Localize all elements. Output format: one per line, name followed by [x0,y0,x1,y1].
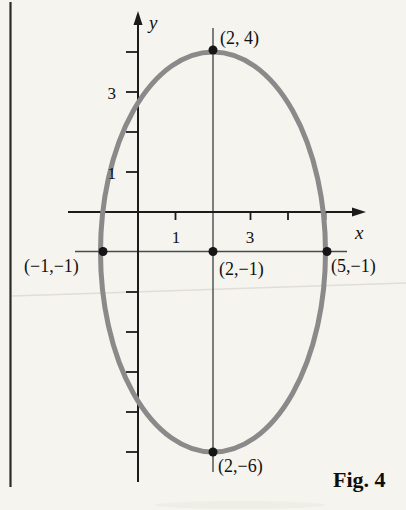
point-label-center: (2,−1) [219,259,264,280]
scan-artifact-line [12,283,406,296]
y-axis-arrow-icon [134,11,143,25]
figure-caption: Fig. 4 [333,467,386,492]
point-dot-top [209,46,218,55]
point-dot-bottom [209,448,218,457]
x-tick-label-1: 1 [172,228,181,247]
point-label-bottom: (2,−6) [218,456,263,477]
x-tick-label-3: 3 [246,228,255,247]
point-dot-center [209,247,218,256]
y-axis-label: y [147,12,158,33]
point-label-left: (−1,−1) [24,256,79,277]
point-dot-left [99,247,108,256]
x-axis-arrow-icon [352,208,366,217]
figure-page: (2, 4) (−1,−1) (2,−1) (5,−1) (2,−6) 3 1 … [0,0,406,510]
x-axis-ticks [176,212,326,220]
point-dot-right [323,247,332,256]
point-label-top: (2, 4) [220,28,259,49]
y-tick-label-3: 3 [108,84,117,103]
scan-smudge [155,501,325,509]
point-label-right: (5,−1) [331,256,376,277]
ellipse-graph: (2, 4) (−1,−1) (2,−1) (5,−1) (2,−6) 3 1 … [0,0,406,510]
x-axis-label: x [354,222,364,243]
y-tick-label-1: 1 [108,164,117,183]
